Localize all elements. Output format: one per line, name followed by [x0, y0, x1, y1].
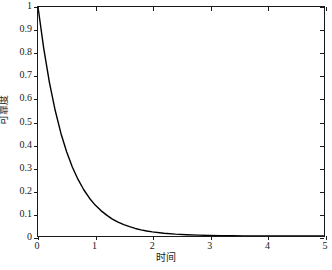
y-tick-label-4: 0.4 [20, 140, 33, 150]
plot-area [37, 6, 325, 237]
y-tick-9 [34, 30, 38, 31]
y-tick-mirror-9 [320, 30, 324, 31]
y-tick-label-5: 0.5 [20, 117, 33, 127]
y-tick-label-2: 0.2 [20, 186, 33, 196]
y-tick-1 [34, 215, 38, 216]
data-curve [38, 7, 324, 236]
x-tick-label-5: 5 [323, 240, 328, 251]
y-tick-label-10: 1 [27, 1, 32, 11]
x-tick-mirror-0 [38, 7, 39, 11]
y-tick-mirror-8 [320, 53, 324, 54]
x-tick-label-4: 4 [265, 240, 270, 251]
y-tick-2 [34, 192, 38, 193]
y-tick-label-9: 0.9 [20, 24, 33, 34]
y-tick-label-6: 0.6 [20, 93, 33, 103]
y-tick-label-7: 0.7 [20, 70, 33, 80]
x-tick-mirror-2 [153, 7, 154, 11]
y-tick-label-1: 0.1 [20, 209, 33, 219]
y-tick-5 [34, 123, 38, 124]
y-tick-mirror-1 [320, 215, 324, 216]
y-tick-label-0: 0 [27, 232, 32, 242]
y-tick-mirror-10 [320, 7, 324, 8]
x-tick-mirror-4 [268, 7, 269, 11]
x-tick-label-0: 0 [35, 240, 40, 251]
y-tick-mirror-0 [320, 238, 324, 239]
y-tick-6 [34, 99, 38, 100]
y-tick-mirror-5 [320, 123, 324, 124]
y-tick-label-3: 0.3 [20, 163, 33, 173]
x-tick-mirror-1 [96, 7, 97, 11]
x-tick-label-1: 1 [92, 240, 97, 251]
y-tick-label-8: 0.8 [20, 47, 33, 57]
y-tick-mirror-4 [320, 146, 324, 147]
y-tick-mirror-2 [320, 192, 324, 193]
y-tick-mirror-7 [320, 76, 324, 77]
y-tick-4 [34, 146, 38, 147]
y-tick-mirror-3 [320, 169, 324, 170]
y-tick-7 [34, 76, 38, 77]
x-tick-mirror-5 [326, 7, 327, 11]
y-tick-3 [34, 169, 38, 170]
y-tick-8 [34, 53, 38, 54]
y-axis-label: 可靠度 [0, 85, 10, 135]
chart-figure: 00.10.20.30.40.50.60.70.80.91 012345 时间 … [0, 0, 332, 270]
x-tick-mirror-3 [211, 7, 212, 11]
y-tick-mirror-6 [320, 99, 324, 100]
x-tick-label-3: 3 [207, 240, 212, 251]
x-axis-label: 时间 [0, 252, 332, 264]
x-tick-label-2: 2 [150, 240, 155, 251]
